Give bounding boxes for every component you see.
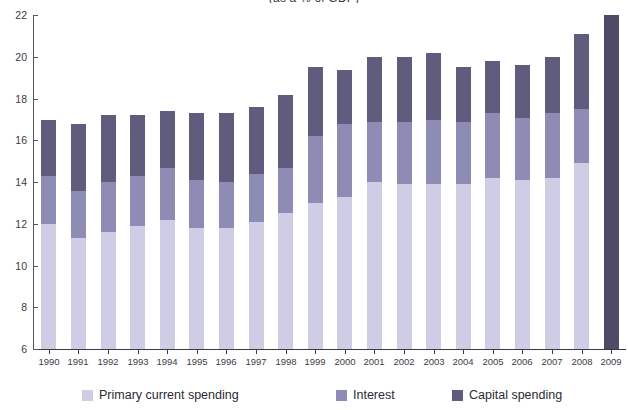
legend-item-primary-current-spending[interactable]: Primary current spending	[82, 388, 239, 402]
y-tick-6	[33, 349, 38, 350]
x-tick-label-1999: 1999	[300, 356, 330, 367]
x-tick-label-2006: 2006	[507, 356, 537, 367]
x-tick-2004	[463, 349, 464, 354]
bar-segment-primary-1994	[160, 220, 175, 349]
x-tick-1995	[197, 349, 198, 354]
x-tick-1996	[226, 349, 227, 354]
x-tick-label-2003: 2003	[419, 356, 449, 367]
bar-1996[interactable]	[219, 113, 234, 349]
bar-segment-interest-1999	[308, 136, 323, 203]
bar-segment-primary-1995	[189, 228, 204, 349]
legend-label-interest: Interest	[353, 388, 395, 402]
x-tick-label-1990: 1990	[34, 356, 64, 367]
bar-segment-capital-2008	[574, 34, 589, 109]
x-tick-2006	[522, 349, 523, 354]
bar-1993[interactable]	[130, 115, 145, 349]
x-tick-2001	[374, 349, 375, 354]
bar-1992[interactable]	[101, 115, 116, 349]
bar-2009[interactable]	[604, 15, 619, 349]
x-tick-1998	[286, 349, 287, 354]
bar-segment-primary-1998	[278, 213, 293, 349]
bar-2001[interactable]	[367, 57, 382, 349]
bar-1995[interactable]	[189, 113, 204, 349]
bar-segment-capital-2003	[426, 53, 441, 120]
bar-2005[interactable]	[485, 61, 500, 349]
bar-1998[interactable]	[278, 95, 293, 349]
bar-segment-interest-2007	[545, 113, 560, 178]
bar-1997[interactable]	[249, 107, 264, 349]
legend-swatch-capital-icon	[452, 390, 463, 401]
bar-segment-capital-1997	[249, 107, 264, 174]
bar-segment-interest-2003	[426, 120, 441, 185]
bar-2003[interactable]	[426, 53, 441, 349]
bar-segment-interest-1997	[249, 174, 264, 222]
chart-legend: Primary current spending Interest Capita…	[0, 388, 628, 408]
x-tick-label-2000: 2000	[330, 356, 360, 367]
x-tick-2008	[582, 349, 583, 354]
bar-segment-capital-1996	[219, 113, 234, 182]
legend-label-capital: Capital spending	[469, 388, 562, 402]
x-tick-label-1993: 1993	[123, 356, 153, 367]
x-tick-1992	[108, 349, 109, 354]
x-tick-label-1998: 1998	[271, 356, 301, 367]
bar-segment-primary-1999	[308, 203, 323, 349]
x-tick-label-2002: 2002	[389, 356, 419, 367]
bar-segment-capital-1991	[71, 124, 86, 191]
legend-swatch-primary-icon	[82, 390, 93, 401]
x-axis-line	[33, 349, 626, 350]
bar-2002[interactable]	[397, 57, 412, 349]
bar-2007[interactable]	[545, 57, 560, 349]
bar-segment-interest-2008	[574, 109, 589, 163]
bar-segment-capital-1993	[130, 115, 145, 175]
bar-1990[interactable]	[41, 120, 56, 349]
bar-1994[interactable]	[160, 111, 175, 349]
x-tick-label-2005: 2005	[478, 356, 508, 367]
bar-segment-interest-1993	[130, 176, 145, 226]
bar-segment-capital-2005	[485, 61, 500, 113]
bar-segment-projection-2009	[604, 15, 619, 349]
bar-segment-capital-2006	[515, 65, 530, 117]
bar-segment-primary-1991	[71, 238, 86, 349]
bar-segment-interest-2002	[397, 122, 412, 185]
x-tick-2005	[493, 349, 494, 354]
bar-segment-capital-2000	[337, 70, 352, 124]
bar-2004[interactable]	[456, 67, 471, 349]
bar-segment-interest-1990	[41, 176, 56, 224]
bar-segment-primary-2001	[367, 182, 382, 349]
x-tick-2002	[404, 349, 405, 354]
legend-item-interest[interactable]: Interest	[336, 388, 395, 402]
bar-2000[interactable]	[337, 70, 352, 349]
bar-1999[interactable]	[308, 67, 323, 349]
bar-segment-capital-1995	[189, 113, 204, 180]
x-tick-label-2001: 2001	[359, 356, 389, 367]
x-tick-label-1995: 1995	[182, 356, 212, 367]
legend-item-capital-spending[interactable]: Capital spending	[452, 388, 562, 402]
x-tick-label-1992: 1992	[93, 356, 123, 367]
bar-segment-primary-2005	[485, 178, 500, 349]
bar-2006[interactable]	[515, 65, 530, 349]
x-tick-1991	[78, 349, 79, 354]
bar-segment-capital-2004	[456, 67, 471, 121]
bar-segment-primary-2000	[337, 197, 352, 349]
bar-segment-capital-1998	[278, 95, 293, 168]
bar-segment-interest-2001	[367, 122, 382, 182]
bar-segment-primary-1990	[41, 224, 56, 349]
bar-segment-capital-1992	[101, 115, 116, 182]
bar-segment-primary-2007	[545, 178, 560, 349]
bar-1991[interactable]	[71, 124, 86, 349]
x-tick-label-1991: 1991	[63, 356, 93, 367]
bar-segment-interest-1992	[101, 182, 116, 232]
x-tick-label-1996: 1996	[211, 356, 241, 367]
bar-segment-interest-1994	[160, 168, 175, 220]
x-tick-label-1997: 1997	[241, 356, 271, 367]
bar-segment-primary-1996	[219, 228, 234, 349]
bar-segment-interest-2006	[515, 118, 530, 181]
bar-series-group	[0, 0, 628, 349]
bar-segment-interest-1998	[278, 168, 293, 214]
x-tick-1997	[256, 349, 257, 354]
bar-segment-interest-1991	[71, 191, 86, 239]
bar-segment-capital-2002	[397, 57, 412, 122]
bar-2008[interactable]	[574, 34, 589, 349]
x-tick-2003	[434, 349, 435, 354]
bar-segment-interest-2004	[456, 122, 471, 185]
